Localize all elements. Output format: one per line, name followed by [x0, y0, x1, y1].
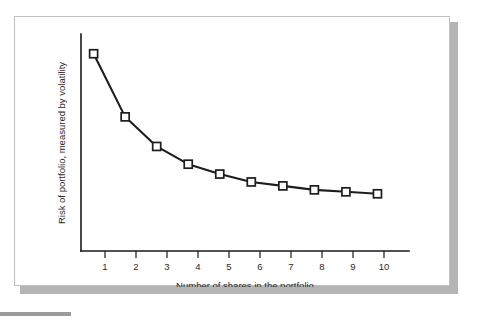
- line-chart: 1 2 3 4 5 6 7 8 9 10 Number of shares in…: [15, 17, 451, 287]
- data-point-marker: [153, 142, 161, 150]
- page-bottom-rule: [0, 312, 71, 316]
- data-point-marker: [342, 188, 350, 196]
- x-tick-label: 3: [164, 261, 169, 272]
- x-tick-label: 5: [226, 261, 231, 272]
- x-tick-label: 7: [288, 261, 293, 272]
- x-axis-ticks: [105, 251, 384, 258]
- figure-frame: 1 2 3 4 5 6 7 8 9 10 Number of shares in…: [14, 16, 450, 286]
- x-axis-tick-labels: 1 2 3 4 5 6 7 8 9 10: [102, 261, 389, 272]
- data-point-marker: [373, 190, 381, 198]
- series-line-portfolio-risk: [94, 54, 378, 194]
- data-point-marker: [247, 178, 255, 186]
- data-point-marker: [90, 50, 98, 58]
- data-point-marker: [279, 182, 287, 190]
- x-tick-label: 6: [257, 261, 262, 272]
- data-point-marker: [184, 160, 192, 168]
- x-tick-label: 4: [195, 261, 200, 272]
- data-point-marker: [216, 170, 224, 178]
- x-tick-label: 2: [133, 261, 138, 272]
- x-axis-title: Number of shares in the portfolio: [176, 280, 314, 287]
- data-point-marker: [310, 186, 318, 194]
- y-axis-title: Risk of portfolio, measured by volatilit…: [56, 62, 67, 224]
- x-tick-label: 1: [102, 261, 107, 272]
- x-tick-label: 10: [379, 261, 390, 272]
- data-point-marker: [121, 113, 129, 121]
- x-tick-label: 9: [350, 261, 355, 272]
- x-tick-label: 8: [319, 261, 324, 272]
